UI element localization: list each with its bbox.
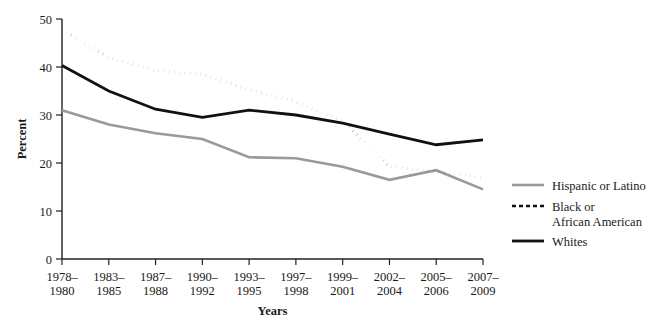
x-tick-label: 1987– [140,270,172,284]
x-tick-label: 1988 [143,284,168,298]
x-tick-label: 1990– [187,270,219,284]
x-tick-label: 1999– [327,270,359,284]
y-tick-label: 50 [40,13,53,27]
legend-label-1: African American [552,215,643,229]
x-tick-label: 2005– [421,270,453,284]
x-tick-label: 1992 [190,284,215,298]
x-axis-ticks [62,259,483,265]
x-tick-label: 2009 [471,284,496,298]
series-line-2 [62,66,483,145]
legend-label-2: Whites [552,235,588,249]
y-tick-label: 40 [40,61,53,75]
x-tick-label: 2001 [330,284,355,298]
line-chart: 01020304050 1978–19801983–19851987–19881… [0,0,658,332]
x-tick-label: 1998 [283,284,308,298]
y-tick-label: 30 [40,109,53,123]
x-tick-label: 2007– [467,270,499,284]
series-line-1 [62,30,483,178]
y-tick-label: 10 [40,205,53,219]
x-tick-label: 1985 [96,284,121,298]
series-line-0 [62,110,483,189]
x-tick-label: 2004 [377,284,403,298]
x-tick-label: 1980 [50,284,75,298]
x-tick-label: 2002– [374,270,406,284]
legend-label-1: Black or [552,200,596,214]
x-tick-label: 1995 [237,284,262,298]
legend-label-0: Hispanic or Latino [552,179,646,193]
y-axis-title: Percent [15,118,29,160]
x-axis-title: Years [258,304,288,318]
x-tick-label: 1983– [93,270,125,284]
y-tick-label: 20 [40,157,53,171]
chart-canvas: 01020304050 1978–19801983–19851987–19881… [0,0,658,332]
x-tick-label: 1997– [280,270,312,284]
chart-legend: Hispanic or LatinoBlack orAfrican Americ… [512,179,646,249]
x-tick-label: 2006 [424,284,449,298]
y-tick-label: 0 [46,253,52,267]
x-axis-labels: 1978–19801983–19851987–19881990–19921993… [46,270,499,298]
y-axis-ticks: 01020304050 [40,13,63,267]
x-tick-label: 1993– [233,270,265,284]
data-series-group [62,30,483,190]
x-tick-label: 1978– [46,270,78,284]
